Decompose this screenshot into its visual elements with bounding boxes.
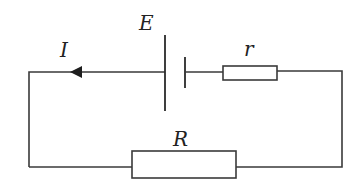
internal-resistor [223, 66, 277, 80]
current-label: I [59, 38, 69, 62]
emf-label: E [138, 11, 154, 35]
current-arrow-icon [70, 66, 82, 78]
external-resistance-label: R [172, 127, 188, 151]
wire-right [236, 71, 342, 167]
external-resistor [132, 151, 236, 178]
internal-resistance-label: r [244, 37, 255, 61]
circuit-diagram: E I r R [0, 0, 363, 192]
